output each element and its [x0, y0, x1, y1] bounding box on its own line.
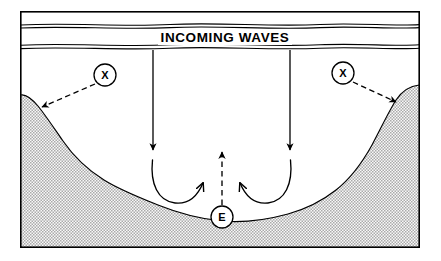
coastal-cross-section-diagram: INCOMING WAVES X X	[0, 0, 441, 261]
marker-e-center-letter: E	[218, 211, 225, 223]
marker-x-right-letter: X	[339, 67, 347, 79]
marker-e-center: E	[211, 206, 233, 228]
marker-x-left-letter: X	[101, 69, 109, 81]
incoming-waves-label: INCOMING WAVES	[161, 30, 290, 45]
figure-canvas: INCOMING WAVES X X	[0, 0, 441, 261]
